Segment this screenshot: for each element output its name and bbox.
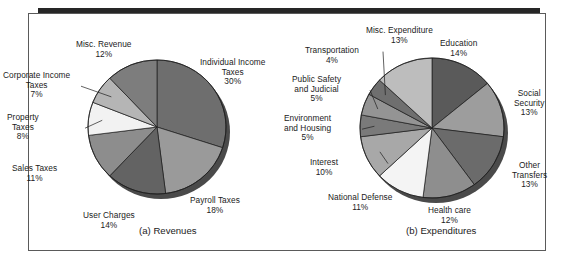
panel-caption-revenues: (a) Revenues bbox=[139, 225, 197, 236]
panel-caption-expenditures: (b) Expenditures bbox=[406, 225, 476, 236]
pie-slice-label-percent: 30% bbox=[200, 77, 265, 87]
pie-slice-label-percent: 7% bbox=[3, 90, 70, 100]
pie-slice-label: Health care12% bbox=[428, 206, 471, 225]
pie-slice-label-percent: 13% bbox=[366, 36, 433, 46]
pie-slice-label: Misc. Revenue12% bbox=[76, 40, 132, 59]
pie-slice-label-percent: 4% bbox=[305, 56, 359, 66]
pie-slice-label-percent: 13% bbox=[514, 108, 544, 118]
pie-slice-label: Individual IncomeTaxes30% bbox=[200, 58, 265, 87]
pie-chart-revenues bbox=[0, 13, 288, 251]
pie-slice-label: User Charges14% bbox=[83, 211, 135, 230]
pie-slice-label: Environmentand Housing5% bbox=[284, 114, 331, 143]
pie-slice-label: Corporate IncomeTaxes7% bbox=[3, 71, 70, 100]
pie-slice-label: Sales Taxes11% bbox=[12, 164, 57, 183]
pie-slice-label: Education14% bbox=[440, 39, 477, 58]
pie-slice-label-percent: 8% bbox=[7, 132, 39, 142]
pie-slice-label: OtherTransfers13% bbox=[512, 161, 547, 190]
pie-slice-label-percent: 13% bbox=[512, 180, 547, 190]
pie-slice-label: Interest10% bbox=[310, 158, 338, 177]
panel-revenues: Individual IncomeTaxes30%Payroll Taxes18… bbox=[0, 13, 288, 251]
pie-slice-label: National Defense11% bbox=[328, 193, 392, 212]
pie-slice-label-percent: 11% bbox=[12, 174, 57, 184]
pie-slice-label-percent: 10% bbox=[310, 168, 338, 178]
pie-slice-label: SocialSecurity13% bbox=[514, 89, 544, 118]
pie-slice-label: Transportation4% bbox=[305, 46, 359, 65]
pie-slice-label-percent: 5% bbox=[284, 133, 331, 143]
pie-slice-label-percent: 5% bbox=[292, 94, 341, 104]
panel-expenditures: Education14%SocialSecurity13%OtherTransf… bbox=[288, 13, 576, 251]
pie-slice-label-percent: 11% bbox=[328, 203, 392, 213]
pie-slice-label-percent: 18% bbox=[190, 206, 240, 216]
pie-slice-label-percent: 14% bbox=[440, 49, 477, 59]
pie-slice-label: PropertyTaxes8% bbox=[7, 113, 39, 142]
pie-slice-label-percent: 12% bbox=[76, 50, 132, 60]
pie-slice-label: Payroll Taxes18% bbox=[190, 196, 240, 215]
pie-slice-label: Misc. Expenditure13% bbox=[366, 26, 433, 45]
pie-slice-label-percent: 12% bbox=[428, 216, 471, 226]
pie-slice-label-percent: 14% bbox=[83, 221, 135, 231]
figure-container: Individual IncomeTaxes30%Payroll Taxes18… bbox=[0, 0, 576, 270]
pie-slice-label: Public Safetyand Judicial5% bbox=[292, 75, 341, 104]
